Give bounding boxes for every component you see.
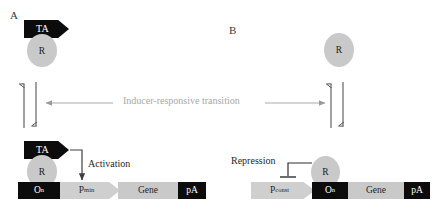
repression-line — [288, 163, 312, 176]
dna-operator-b-subscript: n — [332, 187, 335, 194]
dna-gene-a-label: Gene — [138, 186, 158, 196]
activation-arrow — [70, 150, 82, 180]
figure-canvas: A TA R TA R On Pmin Gene pA Activation B… — [0, 0, 437, 210]
dna-gene-b-label: Gene — [366, 186, 386, 196]
repressor-ellipse-a-top: R — [27, 34, 57, 67]
dna-promoter-a: Pmin — [60, 182, 120, 199]
repressor-ellipse-b-top: R — [324, 33, 354, 67]
dna-polya-a-label: pA — [186, 186, 198, 196]
dna-promoter-b: Pconst — [251, 182, 315, 199]
equilibrium-arrows-b — [331, 82, 343, 128]
dna-polya-b: pA — [404, 182, 430, 199]
repression-label: Repression — [231, 155, 275, 166]
dna-operator-a-label: O — [34, 186, 41, 196]
dna-polya-a: pA — [178, 182, 206, 199]
panel-label-b: B — [229, 24, 236, 36]
dna-operator-a-subscript: n — [41, 187, 44, 194]
dna-gene-b: Gene — [348, 182, 404, 199]
panel-label-a: A — [10, 9, 18, 21]
dna-polya-b-label: pA — [411, 186, 423, 196]
dna-operator-b: On — [312, 182, 348, 199]
transition-label: Inducer-responsive transition — [123, 95, 240, 106]
dna-gene-a: Gene — [118, 182, 178, 199]
activation-label: Activation — [88, 158, 130, 169]
equilibrium-arrows-a — [24, 82, 36, 128]
dna-operator-a: On — [18, 182, 60, 199]
dna-promoter-b-subscript: const — [275, 187, 289, 194]
dna-promoter-a-subscript: min — [84, 187, 94, 194]
dna-operator-b-label: O — [325, 186, 332, 196]
